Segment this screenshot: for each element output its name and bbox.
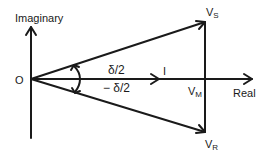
angle-upper-label: δ/2 [108, 63, 125, 77]
phasor-diagram: Imaginary O Real δ/2 − δ/2 I VS VM VR [0, 0, 269, 155]
vs-label: VS [206, 6, 219, 20]
vr-label: VR [205, 138, 218, 152]
vm-label: VM [188, 85, 202, 99]
diagram-svg: Imaginary O Real δ/2 − δ/2 I VS VM VR [0, 0, 269, 155]
imaginary-axis-label: Imaginary [15, 12, 64, 24]
angle-arc-lower [75, 79, 80, 92]
real-axis-label: Real [233, 87, 256, 99]
origin-label: O [15, 74, 24, 86]
current-label: I [163, 65, 166, 77]
angle-lower-label: − δ/2 [103, 81, 130, 95]
